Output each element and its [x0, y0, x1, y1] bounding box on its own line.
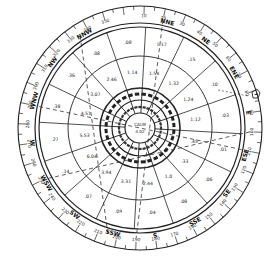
- inner-band-mark: [154, 96, 159, 101]
- degree-tick: [67, 222, 69, 225]
- direction-label-ne: NE: [200, 35, 212, 46]
- degree-tick: [115, 240, 117, 248]
- degree-tick: [24, 163, 32, 165]
- sector-value-middle: .33: [181, 159, 188, 164]
- degree-tick: [186, 237, 188, 241]
- sector-value-middle: 2.46: [106, 77, 116, 82]
- inner-band-mark: [147, 159, 152, 163]
- degree-tick: [234, 199, 237, 201]
- inner-band-mark: [126, 109, 130, 113]
- degree-label: 320: [52, 48, 61, 58]
- sector-value-middle: 3.31: [121, 179, 131, 184]
- degree-tick: [252, 152, 260, 154]
- inner-band-mark: [104, 122, 107, 127]
- degree-tick: [156, 241, 157, 249]
- sector-spoke: [180, 130, 241, 133]
- degree-label: 170: [170, 231, 180, 238]
- degree-tick: [255, 101, 259, 102]
- degree-label: 200: [112, 234, 121, 241]
- inner-band-mark: [167, 142, 172, 147]
- inner-band-mark: [171, 116, 175, 121]
- degree-tick: [237, 188, 244, 192]
- inner-band-mark: [159, 122, 162, 126]
- inner-band-mark: [159, 99, 164, 104]
- degree-label: 190: [132, 237, 141, 242]
- degree-tick: [32, 182, 39, 186]
- inner-band-mark: [118, 126, 120, 129]
- inner-band-mark: [150, 144, 154, 148]
- inner-band-mark: [148, 93, 153, 97]
- degree-label: 330: [66, 35, 76, 44]
- degree-tick: [253, 162, 257, 163]
- degree-tick: [239, 62, 242, 64]
- inner-band-mark: [115, 151, 120, 156]
- degree-label: 220: [76, 218, 86, 227]
- sector-value-outer: .08: [93, 51, 100, 56]
- inner-band-mark: [156, 138, 159, 142]
- degree-tick: [19, 144, 27, 145]
- inner-band-mark: [122, 95, 127, 100]
- degree-label: 10: [141, 13, 147, 18]
- sector-value-middle: 4.51: [81, 111, 91, 116]
- degree-label: 300: [32, 81, 40, 91]
- inner-band-mark: [159, 130, 162, 133]
- inner-band-mark: [104, 129, 107, 134]
- degree-tick: [226, 45, 229, 48]
- degree-tick: [92, 16, 94, 20]
- sector-value-outer: 1.17: [156, 42, 166, 47]
- degree-tick: [23, 92, 27, 93]
- degree-label: 350: [101, 17, 111, 24]
- sector-value-middle: 5.53: [79, 133, 89, 138]
- inner-band-mark: [134, 147, 137, 150]
- degree-label: 110: [246, 146, 253, 155]
- inner-band-mark: [130, 146, 134, 149]
- sector-spoke: [167, 158, 208, 204]
- degree-label: 210: [93, 228, 103, 236]
- sector-value-outer: .08: [180, 199, 187, 204]
- degree-tick: [113, 9, 114, 13]
- inner-band-mark: [146, 107, 150, 110]
- inner-band-mark: [111, 147, 116, 152]
- degree-label: 260: [30, 158, 37, 168]
- degree-tick: [204, 227, 206, 230]
- sector-value-outer: .10: [210, 82, 217, 87]
- sector-value-outer: .27: [51, 137, 58, 142]
- inner-band-mark: [108, 109, 113, 114]
- degree-tick: [220, 214, 223, 217]
- sector-value-middle: 2.44: [143, 181, 153, 186]
- sector-value-outer: .15: [188, 57, 195, 62]
- inner-band-mark: [138, 148, 141, 150]
- inner-band-mark: [121, 155, 126, 160]
- sector-value-middle: 1.32: [169, 81, 179, 86]
- inner-band-mark: [116, 99, 121, 104]
- inner-band-mark: [142, 147, 146, 150]
- degree-tick: [75, 225, 79, 232]
- degree-tick: [167, 243, 168, 247]
- sector-value-outer: .09: [115, 209, 122, 214]
- inner-band-mark: [123, 141, 127, 145]
- degree-tick: [94, 234, 97, 241]
- sector-value-outer: .14: [62, 169, 69, 174]
- sector-value-middle: 1.54: [149, 71, 159, 76]
- sector-value-middle: .45: [191, 139, 198, 144]
- degree-tick: [21, 155, 25, 156]
- degree-label: 150: [204, 211, 214, 220]
- degree-label: 60: [225, 55, 233, 63]
- degree-tick: [123, 7, 124, 15]
- sector-value-outer: .08: [124, 40, 131, 45]
- degree-tick: [51, 208, 54, 211]
- sector-value-outer: .06: [205, 177, 212, 182]
- degree-tick: [85, 233, 87, 237]
- inner-band-mark: [134, 160, 139, 163]
- wind-rose-chart: NNENEENEEESESESSESSSWSWWSWWWNWNWNNW 1020…: [0, 0, 280, 258]
- sector-value-outer: .03: [222, 113, 229, 118]
- sector-value-outer: .36: [68, 73, 75, 78]
- inner-band-mark: [138, 106, 141, 108]
- degree-label: 270: [26, 139, 32, 148]
- inner-band-mark: [105, 115, 109, 120]
- inner-band-mark: [118, 130, 121, 134]
- degree-tick: [43, 55, 46, 57]
- inner-band-mark: [141, 160, 146, 163]
- degree-tick: [174, 11, 175, 15]
- inner-band-mark: [168, 110, 173, 115]
